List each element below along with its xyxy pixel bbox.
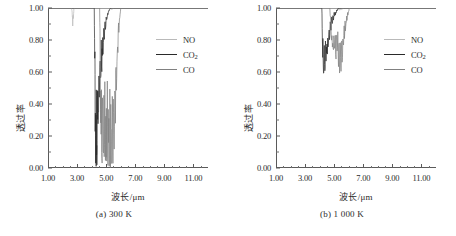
legend-label: CO2: [411, 50, 426, 60]
x-minor-tick: [320, 166, 321, 169]
legend-label: CO: [411, 65, 423, 75]
y-tick-label: 0.60: [257, 67, 276, 77]
x-tick-label: 9.00: [157, 168, 171, 183]
x-minor-tick: [429, 166, 430, 169]
legend-label: NO: [183, 35, 195, 45]
y-minor-tick: [48, 152, 51, 153]
panel-b-legend: NOCO2CO: [384, 34, 446, 79]
y-tick-mark: [276, 72, 280, 73]
x-minor-tick: [298, 166, 299, 169]
legend-label: CO2: [183, 50, 198, 60]
legend-swatch-icon: [156, 39, 177, 41]
x-minor-tick: [121, 166, 122, 169]
y-tick-label: 0.80: [257, 35, 276, 45]
series-line-co2: [48, 8, 208, 166]
x-tick-label: 5.00: [327, 168, 341, 183]
legend-swatch-icon: [384, 39, 405, 41]
y-tick-label: 0.20: [29, 131, 48, 141]
panel-b: 透过率 0.000.200.400.600.801.001.003.005.00…: [228, 0, 456, 236]
x-minor-tick: [341, 166, 342, 169]
panel-b-caption: (b) 1 000 K: [228, 209, 456, 219]
series-line-co: [48, 8, 208, 168]
y-minor-tick: [276, 56, 279, 57]
x-minor-tick: [201, 166, 202, 169]
panel-a-y-axis-label: 透过率: [14, 104, 27, 133]
y-tick-mark: [276, 8, 280, 9]
x-tick-label: 1.00: [269, 168, 283, 183]
y-tick-mark: [48, 8, 52, 9]
x-minor-tick: [113, 166, 114, 169]
panel-b-y-axis-label: 透过率: [242, 104, 255, 133]
y-tick-mark: [276, 104, 280, 105]
panel-a-series-canvas: [48, 8, 208, 168]
x-tick-label: 7.00: [356, 168, 370, 183]
legend-item-no[interactable]: NO: [384, 34, 446, 45]
x-minor-tick: [349, 166, 350, 169]
legend-swatch-icon: [156, 54, 177, 56]
x-minor-tick: [378, 166, 379, 169]
panel-a-plot-area: 0.000.200.400.600.801.001.003.005.007.00…: [48, 8, 208, 168]
x-minor-tick: [414, 166, 415, 169]
x-minor-tick: [291, 166, 292, 169]
panel-b-series-canvas: [276, 8, 436, 168]
legend-swatch-icon: [156, 69, 177, 71]
x-minor-tick: [407, 166, 408, 169]
y-tick-label: 0.40: [257, 99, 276, 109]
x-minor-tick: [55, 166, 56, 169]
x-minor-tick: [327, 166, 328, 169]
y-minor-tick: [276, 120, 279, 121]
x-minor-tick: [371, 166, 372, 169]
x-tick-label: 3.00: [298, 168, 312, 183]
y-tick-mark: [48, 72, 52, 73]
transmittance-figure: 透过率 0.000.200.400.600.801.001.003.005.00…: [0, 0, 456, 236]
y-tick-mark: [48, 136, 52, 137]
legend-label: CO: [183, 65, 195, 75]
y-tick-label: 1.00: [29, 3, 48, 13]
x-tick-label: 9.00: [385, 168, 399, 183]
y-tick-label: 0.60: [29, 67, 48, 77]
y-minor-tick: [48, 88, 51, 89]
panel-a: 透过率 0.000.200.400.600.801.001.003.005.00…: [0, 0, 228, 236]
y-tick-mark: [48, 40, 52, 41]
y-minor-tick: [276, 152, 279, 153]
panel-b-plot-area: 0.000.200.400.600.801.001.003.005.007.00…: [276, 8, 436, 168]
x-minor-tick: [283, 166, 284, 169]
y-minor-tick: [276, 88, 279, 89]
legend-item-co[interactable]: CO: [384, 64, 446, 75]
y-tick-label: 0.40: [29, 99, 48, 109]
legend-item-co2[interactable]: CO2: [384, 49, 446, 60]
x-minor-tick: [63, 166, 64, 169]
x-minor-tick: [172, 166, 173, 169]
x-minor-tick: [385, 166, 386, 169]
legend-item-co[interactable]: CO: [156, 64, 218, 75]
x-minor-tick: [186, 166, 187, 169]
legend-item-no[interactable]: NO: [156, 34, 218, 45]
y-tick-label: 1.00: [257, 3, 276, 13]
y-tick-label: 0.20: [257, 131, 276, 141]
y-tick-mark: [276, 40, 280, 41]
x-minor-tick: [150, 166, 151, 169]
panel-a-x-axis-label: 波长/μm: [48, 190, 208, 203]
x-minor-tick: [143, 166, 144, 169]
x-minor-tick: [356, 166, 357, 169]
y-tick-mark: [276, 136, 280, 137]
legend-item-co2[interactable]: CO2: [156, 49, 218, 60]
panel-b-x-axis-label: 波长/μm: [276, 190, 436, 203]
x-tick-label: 11.00: [185, 168, 203, 183]
x-minor-tick: [84, 166, 85, 169]
y-minor-tick: [48, 56, 51, 57]
legend-swatch-icon: [384, 54, 405, 56]
panel-a-caption: (a) 300 K: [0, 209, 228, 219]
y-tick-label: 0.80: [29, 35, 48, 45]
x-minor-tick: [157, 166, 158, 169]
x-minor-tick: [128, 166, 129, 169]
x-tick-label: 3.00: [70, 168, 84, 183]
x-minor-tick: [312, 166, 313, 169]
x-tick-label: 11.00: [413, 168, 431, 183]
y-tick-mark: [48, 104, 52, 105]
series-line-no: [48, 8, 208, 26]
y-minor-tick: [48, 24, 51, 25]
legend-swatch-icon: [384, 69, 405, 71]
panel-a-legend: NOCO2CO: [156, 34, 218, 79]
x-minor-tick: [400, 166, 401, 169]
